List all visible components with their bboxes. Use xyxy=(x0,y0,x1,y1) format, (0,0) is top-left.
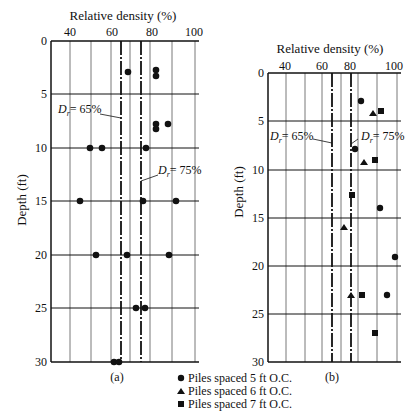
xtick-a-60: 60 xyxy=(106,25,118,39)
ytick-a-20: 20 xyxy=(35,248,47,262)
legend-square-icon xyxy=(178,401,184,407)
xtick-b-60: 60 xyxy=(316,59,328,73)
legend-triangle-icon xyxy=(177,388,185,394)
ytick-a-5: 5 xyxy=(41,87,47,101)
ytick-a-15: 15 xyxy=(35,194,47,208)
panel-b: Relative density (%) 40 60 80 100 0 5 10 xyxy=(231,41,405,384)
xtick-a-100: 100 xyxy=(185,25,203,39)
legend-item-6ft: Piles spaced 6 ft O.C. xyxy=(188,384,292,398)
dr75-annotation-a: Dr= 75% xyxy=(157,163,202,179)
ytick-b-20: 20 xyxy=(252,259,264,273)
dr65-annotation-b: Dr= 65% xyxy=(269,129,314,145)
ytick-b-10: 10 xyxy=(252,163,264,177)
ylabel-b: Depth (ft) xyxy=(231,166,246,218)
panel-label-b: (b) xyxy=(325,370,339,384)
figure: Relative density (%) 40 60 80 100 xyxy=(0,0,417,420)
ytick-b-15: 15 xyxy=(252,211,264,225)
xtick-b-100: 100 xyxy=(385,59,403,73)
panel-a: Relative density (%) 40 60 80 100 xyxy=(14,8,203,384)
xtick-b-40: 40 xyxy=(279,59,291,73)
series-5ft-b xyxy=(352,98,398,298)
ytick-b-30: 30 xyxy=(252,355,264,369)
hgrid-b xyxy=(268,121,401,314)
legend-item-5ft: Piles spaced 5 ft O.C. xyxy=(188,371,292,385)
xtick-a-80: 80 xyxy=(146,25,158,39)
ytick-b-0: 0 xyxy=(258,66,264,80)
xlabel-b: Relative density (%) xyxy=(277,41,384,56)
xlabel-a: Relative density (%) xyxy=(70,8,177,23)
ytick-a-10: 10 xyxy=(35,141,47,155)
legend-circle-icon xyxy=(178,375,184,381)
panel-label-a: (a) xyxy=(110,370,123,384)
legend-item-7ft: Piles spaced 7 ft O.C. xyxy=(188,397,292,411)
ytick-b-5: 5 xyxy=(258,114,264,128)
ytick-b-25: 25 xyxy=(252,307,264,321)
xtick-a-40: 40 xyxy=(64,25,76,39)
xtick-b-80: 80 xyxy=(344,59,356,73)
legend: Piles spaced 5 ft O.C. Piles spaced 6 ft… xyxy=(177,371,292,411)
ytick-a-30: 30 xyxy=(35,355,47,369)
dr65-annotation-a: Dr= 65% xyxy=(57,102,102,118)
ylabel-a: Depth (ft) xyxy=(14,174,29,226)
ytick-a-0: 0 xyxy=(41,34,47,48)
dr75-annotation-b: Dr= 75% xyxy=(360,129,405,145)
ytick-a-25: 25 xyxy=(35,301,47,315)
